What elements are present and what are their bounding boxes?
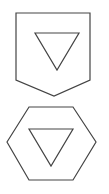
down-triangle-icon [35, 33, 79, 70]
down-triangle-icon [29, 129, 73, 166]
shield-symbol [16, 13, 90, 96]
hexagon-symbol [7, 107, 96, 180]
shield-outline [16, 13, 90, 96]
diagram-svg [0, 0, 109, 194]
hexagon-outline [7, 107, 96, 180]
diagram-canvas [0, 0, 109, 194]
